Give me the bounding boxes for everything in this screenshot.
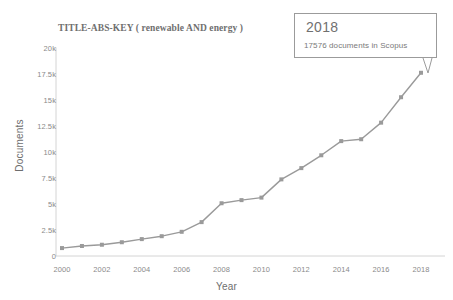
data-point-tooltip[interactable]: 2018 17576 documents in Scopus bbox=[294, 13, 437, 58]
y-tick-17.5k: 17.5k bbox=[16, 69, 56, 78]
x-axis-tick-labels: 2000200220042006200820102012201420162018 bbox=[0, 265, 453, 279]
data-point-2010[interactable] bbox=[259, 196, 263, 200]
data-point-2012[interactable] bbox=[299, 166, 303, 170]
data-point-2008[interactable] bbox=[220, 201, 224, 205]
tooltip-pointer-icon bbox=[280, 55, 440, 80]
tooltip-detail-label: 17576 documents in Scopus bbox=[304, 41, 407, 50]
x-tick-2006: 2006 bbox=[162, 265, 202, 274]
data-point-2011[interactable] bbox=[279, 177, 283, 181]
x-tick-2014: 2014 bbox=[321, 265, 361, 274]
data-point-2013[interactable] bbox=[319, 153, 323, 157]
data-point-2005[interactable] bbox=[160, 234, 164, 238]
data-point-2017[interactable] bbox=[399, 95, 403, 99]
x-tick-2016: 2016 bbox=[361, 265, 401, 274]
data-point-2006[interactable] bbox=[180, 230, 184, 234]
data-point-2003[interactable] bbox=[120, 240, 124, 244]
x-tick-2012: 2012 bbox=[281, 265, 321, 274]
x-tick-2002: 2002 bbox=[82, 265, 122, 274]
x-tick-2004: 2004 bbox=[122, 265, 162, 274]
y-axis-title: Documents bbox=[14, 101, 25, 191]
y-tick-2.5k: 2.5k bbox=[16, 225, 56, 234]
data-point-2016[interactable] bbox=[379, 121, 383, 125]
data-point-2014[interactable] bbox=[339, 139, 343, 143]
y-tick-5k: 5k bbox=[16, 199, 56, 208]
tooltip-year-label: 2018 bbox=[306, 19, 338, 35]
data-point-2009[interactable] bbox=[240, 198, 244, 202]
x-tick-2008: 2008 bbox=[202, 265, 242, 274]
chart-canvas: TITLE-ABS-KEY ( renewable AND energy ) 0… bbox=[0, 0, 453, 300]
y-tick-20k: 20k bbox=[16, 43, 56, 52]
data-point-2007[interactable] bbox=[200, 220, 204, 224]
y-tick-0: 0 bbox=[16, 252, 56, 261]
x-tick-2000: 2000 bbox=[42, 265, 82, 274]
x-tick-2010: 2010 bbox=[241, 265, 281, 274]
data-point-2002[interactable] bbox=[100, 243, 104, 247]
x-tick-2018: 2018 bbox=[401, 265, 441, 274]
series-markers bbox=[60, 71, 423, 250]
data-point-2015[interactable] bbox=[359, 137, 363, 141]
series-line-documents bbox=[62, 73, 421, 248]
x-axis-title: Year bbox=[0, 281, 453, 292]
data-point-2000[interactable] bbox=[60, 246, 64, 250]
data-point-2004[interactable] bbox=[140, 237, 144, 241]
data-point-2001[interactable] bbox=[80, 244, 84, 248]
